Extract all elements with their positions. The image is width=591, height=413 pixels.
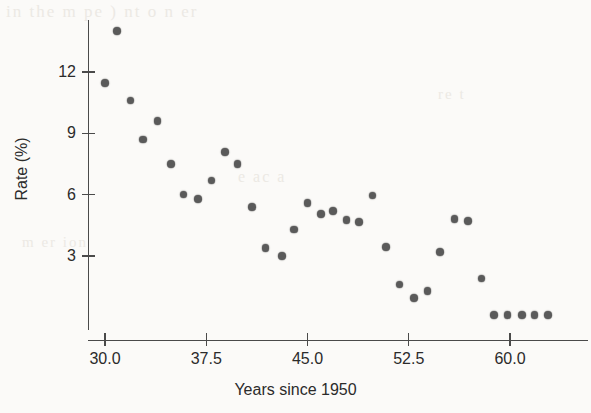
y-axis-line [88,20,89,330]
data-point [290,226,298,234]
y-tick-mark [82,194,95,195]
y-axis-title: Rate (%) [13,121,31,217]
data-point [382,243,390,251]
x-axis-title: Years since 1950 [0,381,591,399]
data-point [369,192,377,200]
data-point [278,252,286,260]
data-point [167,160,175,168]
scatter-plot-figure: in the m pe ) nt o n er e ac a m er ion … [0,0,591,413]
data-point [329,207,337,215]
data-point [490,311,498,319]
y-tick-label: 3 [38,247,76,265]
y-tick-label: 6 [38,186,76,204]
x-tick-label: 45.0 [292,350,323,367]
plot-area: 36912 30.037.545.052.560.0 Rate (%) Year… [0,0,591,413]
data-point [478,275,486,283]
data-point [208,177,216,185]
data-point [518,311,526,319]
data-point [262,244,270,252]
data-point [410,294,418,302]
data-point [180,191,188,199]
x-axis-line [88,340,588,341]
x-tick-mark [509,333,510,346]
data-point [154,117,162,125]
data-point [317,210,325,218]
data-point [304,199,312,207]
data-point [113,27,121,35]
data-point [396,281,404,289]
y-tick-label: 12 [38,63,76,81]
x-tick-mark [206,333,207,346]
data-point [127,97,135,105]
data-point [424,287,432,295]
x-tick-label: 60.0 [494,350,525,367]
x-tick-label: 52.5 [393,350,424,367]
y-tick-mark [82,133,95,134]
x-tick-label: 37.5 [191,350,222,367]
y-tick-mark [82,71,95,72]
data-point [248,203,256,211]
data-point [101,79,109,87]
data-point [355,218,363,226]
y-tick-mark [82,255,95,256]
data-point [234,160,242,168]
x-tick-mark [408,333,409,346]
x-tick-mark [104,333,105,346]
x-tick-mark [307,333,308,346]
data-point [504,311,512,319]
data-point [194,195,202,203]
data-point [221,148,229,156]
data-point [451,215,459,223]
y-tick-label: 9 [38,124,76,142]
data-point [139,136,147,144]
data-point [343,216,351,224]
data-point [544,311,552,319]
x-tick-label: 30.0 [89,350,120,367]
data-point [464,217,472,225]
data-point [436,248,444,256]
data-point [531,311,539,319]
